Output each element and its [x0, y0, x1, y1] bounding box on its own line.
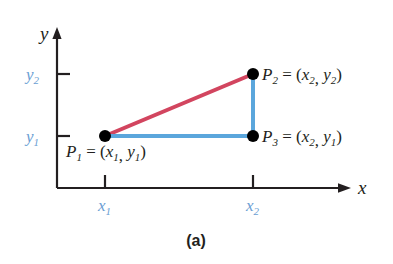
- y-axis-arrowhead: [52, 27, 61, 39]
- triangle-segments: [105, 74, 253, 136]
- x-axis-arrowhead: [338, 183, 351, 193]
- x-tick-label-x2: x2: [245, 196, 260, 217]
- axes-group: [52, 27, 351, 193]
- point-label-p2: P2 = (x2, y2): [261, 65, 342, 88]
- y-tick-label-y1: y1: [24, 127, 39, 148]
- point-dot-p2: [247, 68, 259, 80]
- y-tick-label-y2: y2: [24, 65, 40, 86]
- x-axis-label: x: [357, 177, 367, 198]
- figure-caption: (a): [186, 232, 206, 249]
- x-tick-label-x1: x1: [97, 196, 111, 217]
- point-label-p1: P1 = (x1, y1): [65, 142, 146, 165]
- segment-p1-p2-hypotenuse: [105, 74, 253, 136]
- point-label-p3: P3 = (x2, y1): [261, 127, 342, 150]
- point-dot-p3: [247, 130, 259, 142]
- figure-container: y x y2 y1 x1 x2 P1 = (x1, y1) P2 = (x2, …: [0, 0, 393, 264]
- point-dot-p1: [99, 130, 111, 142]
- right-triangle-distance-figure: y x y2 y1 x1 x2 P1 = (x1, y1) P2 = (x2, …: [0, 0, 393, 264]
- y-axis-label: y: [38, 23, 49, 44]
